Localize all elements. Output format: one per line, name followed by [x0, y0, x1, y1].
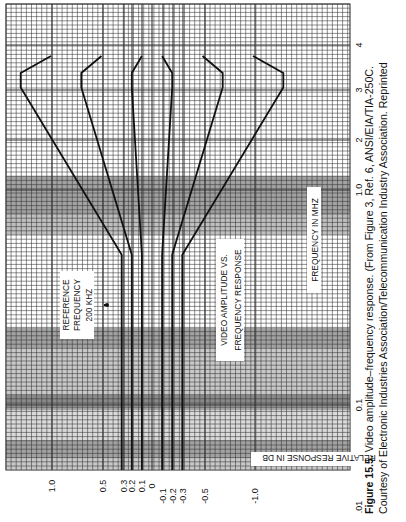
- svg-text:VIDEO AMPLITUDE VS.: VIDEO AMPLITUDE VS.: [219, 254, 229, 346]
- y-tick-label: -0.3: [178, 488, 188, 504]
- y-tick-label: -0.5: [200, 488, 210, 504]
- svg-text:1.0: 1.0: [47, 480, 57, 493]
- chart-title: VIDEO AMPLITUDE VS.FREQUENCY RESPONSE: [216, 239, 244, 361]
- svg-text:0: 0: [147, 483, 157, 488]
- y-tick-label: -0.1: [158, 488, 168, 504]
- svg-text:-0.1: -0.1: [158, 488, 168, 504]
- caption-label: Figure 15.5.: [363, 455, 375, 514]
- y-tick-label: -1.0: [250, 488, 260, 504]
- caption-line2: Courtesy of Electronic Industries Associ…: [376, 6, 390, 514]
- svg-text:-0.5: -0.5: [200, 488, 210, 504]
- svg-text:0.2: 0.2: [127, 480, 137, 493]
- y-tick-label: 0: [147, 483, 157, 488]
- svg-text:0.1: 0.1: [137, 480, 147, 493]
- svg-text:-0.3: -0.3: [178, 488, 188, 504]
- caption-line1: Video amplitude–frequency response. (Fro…: [363, 66, 375, 455]
- svg-text:FREQUENCY RESPONSE: FREQUENCY RESPONSE: [233, 249, 243, 351]
- y-tick-label: 0.5: [98, 480, 108, 493]
- svg-text:REFERENCE: REFERENCE: [61, 279, 71, 331]
- svg-text:200 KHZ: 200 KHZ: [84, 289, 94, 322]
- reference-marker: [105, 303, 109, 307]
- x-axis-label: FREQUENCY IN MHZ: [307, 187, 321, 293]
- y-tick-label: 1.0: [47, 480, 57, 493]
- frequency-response-chart: REFERENCEFREQUENCY200 KHZVIDEO AMPLITUDE…: [0, 0, 406, 522]
- y-tick-label: 0.2: [127, 480, 137, 493]
- svg-text:0.5: 0.5: [98, 480, 108, 493]
- svg-text:-0.2: -0.2: [168, 488, 178, 504]
- reference-frequency-label: REFERENCEFREQUENCY200 KHZ: [60, 271, 94, 339]
- y-tick-label: -0.2: [168, 488, 178, 504]
- y-tick-label: 0.1: [137, 480, 147, 493]
- svg-text:FREQUENCY IN MHZ: FREQUENCY IN MHZ: [310, 198, 320, 282]
- svg-text:-1.0: -1.0: [250, 488, 260, 504]
- svg-text:FREQUENCY: FREQUENCY: [72, 278, 82, 331]
- figure-caption: Figure 15.5. Video amplitude–frequency r…: [358, 0, 406, 522]
